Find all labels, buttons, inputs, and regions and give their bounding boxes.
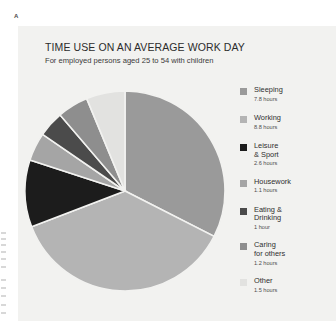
legend-swatch-icon — [240, 116, 247, 123]
legend-item[interactable]: Housework1.1 hours — [240, 178, 332, 196]
legend-value: 1.5 hours — [254, 287, 332, 295]
legend-item[interactable]: Leisure& Sport2.6 hours — [240, 142, 332, 168]
legend-swatch-icon — [240, 88, 247, 95]
legend-label: Working — [254, 114, 332, 123]
legend-item[interactable]: Working8.8 hours — [240, 114, 332, 132]
legend-value: 8.8 hours — [254, 124, 332, 132]
pie-chart — [22, 88, 232, 298]
scan-edge-artifacts — [0, 232, 7, 316]
legend-value: 7.8 hours — [254, 96, 332, 104]
legend-label: Leisure& Sport — [254, 142, 332, 159]
legend-value: 1 hour — [254, 224, 332, 232]
legend-item[interactable]: Sleeping7.8 hours — [240, 86, 332, 104]
legend-value: 2.6 hours — [254, 160, 332, 168]
legend-value: 1.2 hours — [254, 260, 332, 268]
page-subtitle: For employed persons aged 25 to 54 with … — [45, 56, 295, 66]
legend-swatch-icon — [240, 279, 247, 286]
legend-swatch-icon — [240, 180, 247, 187]
legend-swatch-icon — [240, 243, 247, 250]
legend-label: Housework — [254, 178, 332, 187]
legend-label: Sleeping — [254, 86, 332, 95]
chart-legend: Sleeping7.8 hoursWorking8.8 hoursLeisure… — [240, 86, 332, 305]
figure-label: A — [14, 13, 19, 19]
legend-value: 1.1 hours — [254, 187, 332, 195]
title-block: TIME USE ON AN AVERAGE WORK DAY For empl… — [45, 41, 295, 66]
pie-chart-svg — [22, 88, 232, 298]
pie-slice-group — [25, 91, 225, 291]
legend-item[interactable]: Caringfor others1.2 hours — [240, 241, 332, 267]
legend-swatch-icon — [240, 208, 247, 215]
legend-label: Eating &Drinking — [254, 206, 332, 223]
page-title: TIME USE ON AN AVERAGE WORK DAY — [45, 41, 295, 54]
legend-label: Caringfor others — [254, 241, 332, 258]
legend-label: Other — [254, 277, 332, 286]
legend-item[interactable]: Other1.5 hours — [240, 277, 332, 295]
legend-item[interactable]: Eating &Drinking1 hour — [240, 206, 332, 232]
legend-swatch-icon — [240, 144, 247, 151]
infographic-page: A TIME USE ON AN AVERAGE WORK DAY For em… — [0, 0, 336, 321]
chart-panel: TIME USE ON AN AVERAGE WORK DAY For empl… — [18, 26, 336, 321]
